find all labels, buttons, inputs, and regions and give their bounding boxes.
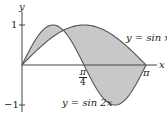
y-axis-label: y bbox=[19, 2, 25, 12]
curve-label-sin-x: y = sin x bbox=[126, 33, 167, 43]
x-tick-label-frac: π 4 bbox=[79, 68, 87, 87]
x-axis-label: x bbox=[159, 60, 165, 70]
y-tick-label-neg1: −1 bbox=[4, 100, 19, 110]
x-tick-label-pi: π bbox=[143, 68, 150, 78]
frac-denominator: 4 bbox=[79, 78, 87, 87]
y-tick-label-1: 1 bbox=[11, 20, 17, 30]
curve-label-sin-2x: y = sin 2x bbox=[62, 98, 112, 108]
